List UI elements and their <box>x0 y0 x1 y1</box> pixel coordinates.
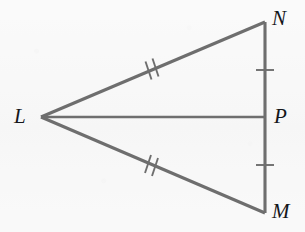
figure-canvas <box>0 0 305 232</box>
vertex-label-L: L <box>14 106 26 127</box>
geometry-figure: L N P M <box>0 0 305 232</box>
vertex-label-N: N <box>272 8 286 29</box>
vertex-label-M: M <box>272 201 290 222</box>
segment-LN <box>41 22 265 117</box>
vertex-label-P: P <box>274 106 287 127</box>
segment-LM <box>41 117 265 213</box>
